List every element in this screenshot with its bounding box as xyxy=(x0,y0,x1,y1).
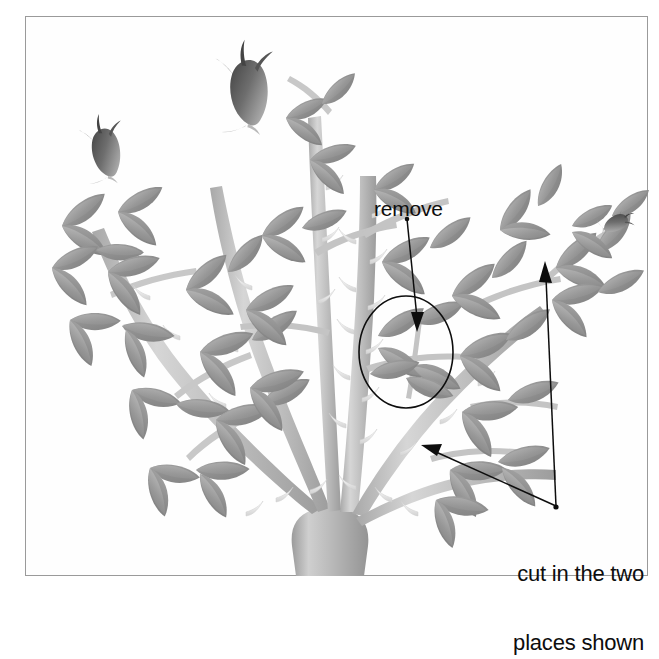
rose-buds xyxy=(73,36,640,242)
rose-bud-left xyxy=(73,109,135,190)
cut-label-line-1: cut in the two xyxy=(513,562,644,585)
cut-label-line-2: places shown xyxy=(513,631,644,654)
remove-label: remove xyxy=(374,198,443,220)
rose-bud-top xyxy=(209,36,284,140)
remove-leader-line xyxy=(407,219,417,318)
cut-label: cut in the two places shown xyxy=(513,516,644,659)
